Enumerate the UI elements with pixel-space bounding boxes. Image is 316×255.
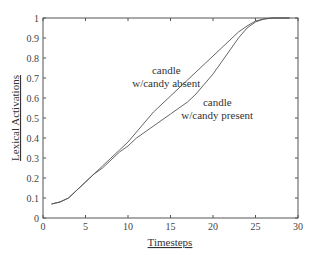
x-tick-label: 25 <box>251 221 261 232</box>
x-tick-label: 30 <box>293 221 303 232</box>
y-tick-label: 0.2 <box>27 173 40 184</box>
y-tick-label: 0 <box>34 213 39 224</box>
line-chart: 05101520253000.10.20.30.40.50.60.70.80.9… <box>0 0 316 255</box>
y-tick-label: 0.8 <box>27 53 40 64</box>
y-tick-label: 0.6 <box>27 93 40 104</box>
y-tick-label: 0.4 <box>27 133 40 144</box>
plot-frame <box>43 18 298 218</box>
plot-border <box>43 18 298 218</box>
y-tick-label: 0.5 <box>27 113 40 124</box>
x-tick-label: 15 <box>166 221 176 232</box>
curve-annotations: candlew/candy absentcandlew/candy presen… <box>132 64 253 121</box>
x-tick-label: 10 <box>123 221 133 232</box>
series-candle-present <box>52 18 290 204</box>
series-candle-absent <box>52 18 290 204</box>
y-tick-label: 0.7 <box>27 73 40 84</box>
y-tick-label: 1 <box>34 13 39 24</box>
y-tick-label: 0.9 <box>27 33 40 44</box>
x-tick-label: 5 <box>83 221 88 232</box>
data-series <box>52 18 290 204</box>
x-tick-label: 0 <box>41 221 46 232</box>
axis-ticks: 05101520253000.10.20.30.40.50.60.70.80.9… <box>27 13 304 233</box>
y-axis-title: Lexical Activations <box>9 75 21 161</box>
x-axis-title: Timesteps <box>148 236 193 248</box>
annotation-candle-absent: candlew/candy absent <box>132 64 200 89</box>
x-tick-label: 20 <box>208 221 218 232</box>
annotation-candle-present: candlew/candy present <box>181 96 253 121</box>
y-tick-label: 0.3 <box>27 153 40 164</box>
y-tick-label: 0.1 <box>27 193 40 204</box>
